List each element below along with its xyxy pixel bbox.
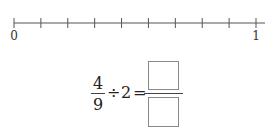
divisor-value: 2: [121, 85, 131, 101]
dividend-numerator: 4: [91, 76, 105, 92]
answer-fraction-bar: [144, 93, 183, 94]
answer-numerator-box[interactable]: [148, 61, 179, 90]
dividend-fraction-bar: [91, 93, 105, 94]
answer-denominator-box[interactable]: [148, 97, 179, 127]
divide-operator: ÷: [107, 85, 120, 101]
division-expression: 4 9 ÷ 2 =: [0, 0, 277, 130]
dividend-denominator: 9: [91, 97, 105, 113]
